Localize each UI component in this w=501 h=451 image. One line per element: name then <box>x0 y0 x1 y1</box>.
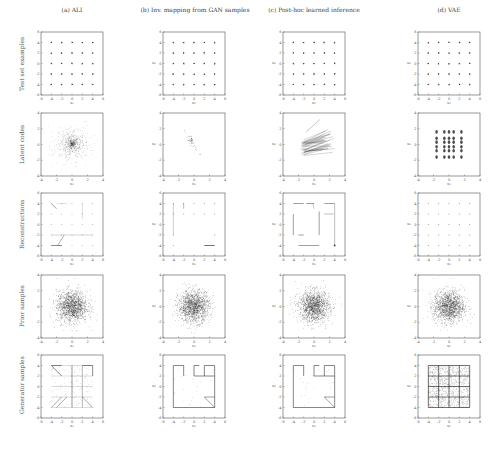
svg-text:-2: -2 <box>36 395 40 399</box>
svg-text:-2: -2 <box>413 395 417 399</box>
svg-text:-6: -6 <box>413 93 417 97</box>
row-label-test: Test set examples <box>18 37 25 91</box>
svg-text:-2: -2 <box>432 340 436 344</box>
svg-text:4: 4 <box>224 178 227 182</box>
panel-test-ali: -6-6-4-4-2-200224466x₁ <box>41 32 103 95</box>
svg-text:4: 4 <box>334 258 337 262</box>
svg-text:4: 4 <box>37 364 40 368</box>
panel-recon-ali: -6-6-4-4-2-200224466x₁ <box>41 193 103 256</box>
svg-text:-2: -2 <box>302 97 306 101</box>
svg-text:-6: -6 <box>413 254 417 258</box>
svg-text:6: 6 <box>37 191 39 195</box>
svg-text:0: 0 <box>414 62 416 66</box>
panel-recon-posthoc: -6-6-4-4-2-200224466x₁x₂ <box>283 193 345 256</box>
svg-text:-6: -6 <box>416 258 420 262</box>
svg-text:-4: -4 <box>50 420 54 424</box>
svg-text:-6: -6 <box>39 258 43 262</box>
svg-text:2: 2 <box>81 420 83 424</box>
svg-text:x₁: x₁ <box>312 261 316 266</box>
svg-text:6: 6 <box>414 191 416 195</box>
svg-text:4: 4 <box>479 340 482 344</box>
svg-text:-6: -6 <box>39 420 43 424</box>
svg-text:-2: -2 <box>432 178 436 182</box>
svg-text:4: 4 <box>344 340 347 344</box>
svg-text:-6: -6 <box>161 258 165 262</box>
svg-text:2: 2 <box>458 258 460 262</box>
svg-text:4: 4 <box>279 202 282 206</box>
svg-text:-6: -6 <box>36 254 40 258</box>
svg-text:x₁: x₁ <box>70 343 74 348</box>
svg-text:6: 6 <box>102 258 104 262</box>
svg-text:4: 4 <box>334 97 337 101</box>
svg-text:4: 4 <box>92 258 95 262</box>
svg-text:-6: -6 <box>281 420 285 424</box>
svg-text:-2: -2 <box>60 420 64 424</box>
svg-text:-2: -2 <box>55 178 59 182</box>
svg-text:-4: -4 <box>413 244 417 248</box>
svg-text:4: 4 <box>279 41 282 45</box>
svg-text:2: 2 <box>414 374 416 378</box>
svg-text:-6: -6 <box>161 420 165 424</box>
svg-text:2: 2 <box>414 212 416 216</box>
svg-text:-2: -2 <box>182 420 186 424</box>
panel-latent-inv: -4-4-2-2002244x₁x₂ <box>163 113 225 176</box>
svg-text:-4: -4 <box>292 258 296 262</box>
svg-text:4: 4 <box>159 364 162 368</box>
svg-text:-4: -4 <box>427 97 431 101</box>
svg-text:-4: -4 <box>36 83 40 87</box>
svg-text:4: 4 <box>159 111 162 115</box>
svg-text:-6: -6 <box>413 416 417 420</box>
panel-recon-inv: -6-6-4-4-2-200224466x₁x₂ <box>163 193 225 256</box>
svg-text:-6: -6 <box>281 258 285 262</box>
svg-text:2: 2 <box>279 289 281 293</box>
svg-text:6: 6 <box>102 420 104 424</box>
svg-text:2: 2 <box>37 127 39 131</box>
svg-text:4: 4 <box>37 111 40 115</box>
svg-text:2: 2 <box>37 51 39 55</box>
svg-text:-2: -2 <box>437 258 441 262</box>
svg-text:x₁: x₁ <box>447 343 451 348</box>
svg-text:2: 2 <box>203 420 205 424</box>
svg-text:x₂: x₂ <box>152 221 156 226</box>
svg-text:-4: -4 <box>292 420 296 424</box>
panel-recon-vae: -6-6-4-4-2-200224466x₁x₂ <box>418 193 480 256</box>
svg-text:x₂: x₂ <box>407 60 411 65</box>
panel-latent-ali: -4-4-2-2002244x₁ <box>41 113 103 176</box>
row-label-gen: Generator samples <box>18 356 25 414</box>
svg-text:x₂: x₂ <box>272 141 276 146</box>
svg-text:-2: -2 <box>278 233 282 237</box>
panel-gen-posthoc: -6-6-4-4-2-200224466x₁x₂ <box>283 355 345 418</box>
svg-text:-4: -4 <box>292 97 296 101</box>
svg-text:4: 4 <box>102 340 105 344</box>
svg-text:-6: -6 <box>158 93 162 97</box>
panel-test-vae: -6-6-4-4-2-200224466x₁x₂ <box>418 32 480 95</box>
svg-text:2: 2 <box>203 258 205 262</box>
svg-text:x₂: x₂ <box>407 383 411 388</box>
svg-text:2: 2 <box>159 289 161 293</box>
svg-text:0: 0 <box>279 143 281 147</box>
svg-text:6: 6 <box>159 191 161 195</box>
svg-text:-4: -4 <box>413 406 417 410</box>
panel-prior-inv: -4-4-2-2002244x₁x₂ <box>163 275 225 338</box>
svg-text:-4: -4 <box>281 340 285 344</box>
svg-text:2: 2 <box>37 374 39 378</box>
svg-text:0: 0 <box>279 223 281 227</box>
svg-text:4: 4 <box>344 178 347 182</box>
svg-text:2: 2 <box>328 178 330 182</box>
panel-gen-inv: -6-6-4-4-2-200224466x₁x₂ <box>163 355 225 418</box>
row-label-prior: Prior samples <box>18 285 25 327</box>
svg-text:4: 4 <box>159 202 162 206</box>
svg-text:x₂: x₂ <box>152 383 156 388</box>
svg-text:4: 4 <box>414 273 417 277</box>
svg-text:2: 2 <box>86 340 88 344</box>
svg-text:-2: -2 <box>60 97 64 101</box>
svg-text:0: 0 <box>37 223 39 227</box>
svg-text:4: 4 <box>214 258 217 262</box>
svg-text:-2: -2 <box>278 320 282 324</box>
svg-text:2: 2 <box>279 127 281 131</box>
svg-text:-6: -6 <box>278 254 282 258</box>
svg-text:-4: -4 <box>416 178 420 182</box>
svg-text:-6: -6 <box>278 416 282 420</box>
svg-text:2: 2 <box>86 178 88 182</box>
svg-text:2: 2 <box>279 212 281 216</box>
